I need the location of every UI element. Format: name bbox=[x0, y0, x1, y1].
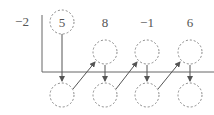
coefficient-3: −1 bbox=[140, 15, 154, 30]
lower-blank-circle bbox=[50, 83, 74, 107]
upper-blank-circle bbox=[135, 40, 159, 64]
coefficient-1: 5 bbox=[59, 15, 66, 30]
synthetic-division-diagram: −2 5 8 −1 6 bbox=[0, 0, 214, 115]
diagonal-arrow-icon bbox=[158, 62, 180, 89]
diagonal-arrow-icon bbox=[73, 62, 95, 89]
diagonal-arrow-icon bbox=[116, 62, 137, 89]
lower-blank-circle bbox=[93, 83, 117, 107]
lower-blank-circle bbox=[178, 83, 202, 107]
coefficient-2: 8 bbox=[102, 15, 109, 30]
upper-blank-circle bbox=[178, 40, 202, 64]
lower-blank-circle bbox=[135, 83, 159, 107]
upper-blank-circle bbox=[93, 40, 117, 64]
coefficient-4: 6 bbox=[187, 15, 194, 30]
divisor-label: −2 bbox=[15, 14, 29, 29]
